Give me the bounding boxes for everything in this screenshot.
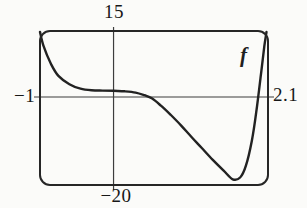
tick-label-xmin: −1 xyxy=(14,86,35,106)
function-name-label: f xyxy=(240,43,247,68)
tick-label-ymin: −20 xyxy=(100,186,131,206)
viewport-border xyxy=(40,31,268,185)
function-curve xyxy=(40,32,267,180)
tick-label-xmax: 2.1 xyxy=(273,85,298,105)
chart-canvas xyxy=(0,0,307,208)
tick-label-ymax: 15 xyxy=(104,2,124,22)
calculator-viewport-figure: 15 −1 2.1 −20 f xyxy=(0,0,307,208)
